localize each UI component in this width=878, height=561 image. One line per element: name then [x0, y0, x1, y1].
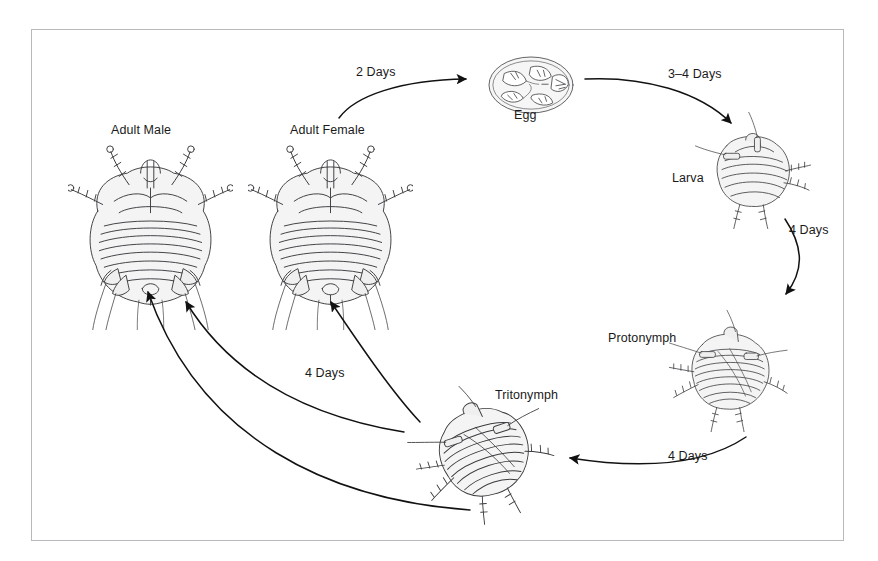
stage-label-egg: Egg — [514, 108, 537, 122]
stage-label-larva: Larva — [672, 171, 704, 185]
stage-label-protonymph: Protonymph — [608, 331, 676, 345]
stage-label-adult-female: Adult Female — [290, 123, 365, 137]
arrow-tritonymph-to-male-upper — [186, 302, 404, 432]
arrow-female-to-egg — [339, 79, 466, 118]
figure-canvas: Adult Male Adult Female Egg Larva Proton… — [0, 0, 878, 561]
stage-label-adult-male: Adult Male — [111, 123, 171, 137]
duration-label-egg-to-larva: 3–4 Days — [668, 67, 722, 81]
life-cycle-drawing — [0, 0, 878, 561]
arrow-tritonymph-to-female — [331, 302, 420, 422]
duration-label-larva-to-protonymph: 4 Days — [789, 223, 829, 237]
stage-figure-adult-male — [67, 146, 234, 330]
stage-label-tritonymph: Tritonymph — [495, 388, 558, 402]
stage-figure-protonymph — [669, 310, 787, 432]
stage-figure-larva — [695, 112, 810, 229]
duration-label-female-to-egg: 2 Days — [356, 65, 396, 79]
arrow-tritonymph-to-male-lower — [148, 292, 470, 510]
stage-figure-egg — [489, 57, 573, 113]
duration-label-tritonymph-to-female: 4 Days — [305, 366, 345, 380]
duration-label-protonymph-to-tritonymph: 4 Days — [668, 449, 708, 463]
arrow-protonymph-to-tritonymph — [570, 437, 746, 464]
arrow-egg-to-larva — [585, 79, 731, 123]
